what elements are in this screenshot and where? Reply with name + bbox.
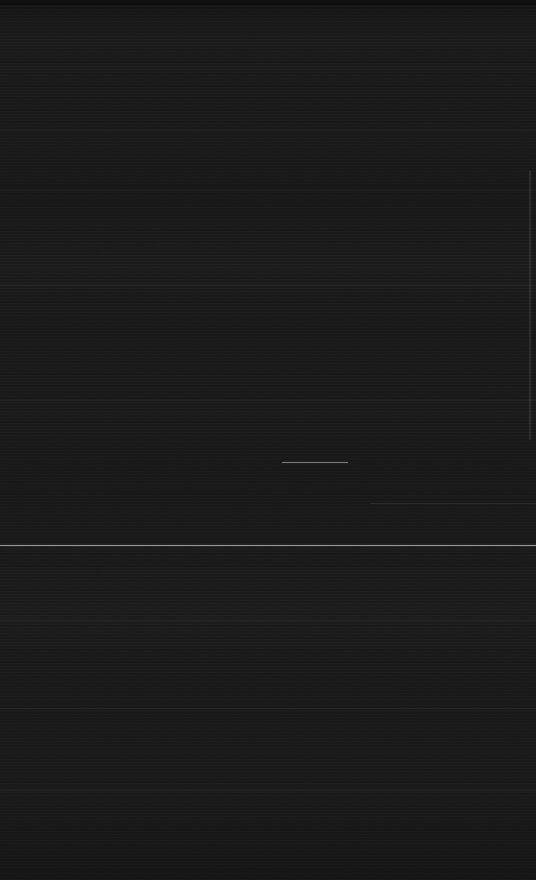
screen-capture bbox=[0, 0, 536, 880]
section-divider bbox=[0, 545, 536, 546]
separator-1 bbox=[0, 130, 536, 131]
separator-2 bbox=[0, 190, 536, 191]
separator-8 bbox=[0, 790, 536, 791]
separator-7 bbox=[0, 708, 536, 709]
separator-4 bbox=[0, 400, 536, 401]
background-field bbox=[0, 0, 536, 880]
highlight-segment bbox=[282, 462, 348, 463]
separator-5 bbox=[370, 503, 536, 504]
status-bar bbox=[0, 0, 536, 6]
separator-3 bbox=[0, 285, 536, 286]
separator-6 bbox=[0, 620, 536, 621]
scrollbar-thumb[interactable] bbox=[529, 170, 531, 440]
